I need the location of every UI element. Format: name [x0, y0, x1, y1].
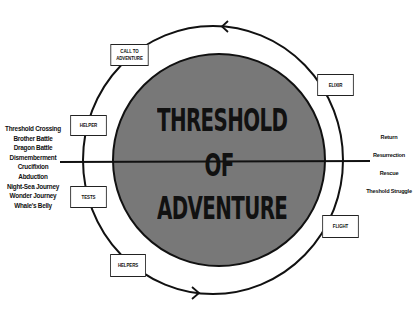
list-item: Dragon Battle	[0, 143, 66, 153]
list-item: Wonder Journey	[0, 191, 66, 201]
stage-label-line2: ADVENTURE	[116, 55, 143, 62]
list-item: Crucifixion	[0, 162, 66, 172]
list-item: Brother Battle	[0, 134, 66, 144]
stage-label: TESTS	[82, 194, 96, 201]
stage-helper: HELPER	[70, 115, 107, 136]
stage-tests: TESTS	[70, 186, 107, 208]
descent-stages-list: Threshold Crossing Brother Battle Dragon…	[0, 124, 66, 210]
list-item: Return	[358, 128, 420, 146]
list-item: Dismemberment	[0, 153, 66, 163]
list-item: Resurrection	[358, 146, 420, 164]
stage-label-line1: CALL TO	[120, 48, 138, 55]
stage-helpers: HELPERS	[110, 254, 146, 277]
stage-label: HELPER	[80, 122, 97, 129]
list-item: Whale's Belly	[0, 201, 66, 211]
hero-journey-diagram: THRESHOLD OF ADVENTURE CALL TO ADVENTURE…	[0, 0, 420, 313]
stage-call-to-adventure: CALL TO ADVENTURE	[110, 44, 148, 66]
stage-flight: FLIGHT	[322, 215, 359, 238]
stage-label: FLIGHT	[333, 223, 348, 230]
title-of: OF	[157, 149, 281, 181]
title-threshold: THRESHOLD	[157, 104, 281, 136]
list-item: Rescue	[358, 164, 420, 182]
list-item: Night-Sea Journey	[0, 182, 66, 192]
title-adventure: ADVENTURE	[157, 192, 281, 224]
stage-label: HELPERS	[118, 262, 138, 269]
stage-elixir: ELIXIR	[317, 74, 354, 96]
list-item: Threshold Crossing	[0, 124, 66, 134]
return-stages-list: Return Resurrection Rescue Theshold Stru…	[358, 128, 420, 200]
list-item: Theshold Struggle	[358, 182, 420, 200]
list-item: Abduction	[0, 172, 66, 182]
stage-label: ELIXIR	[329, 82, 343, 89]
